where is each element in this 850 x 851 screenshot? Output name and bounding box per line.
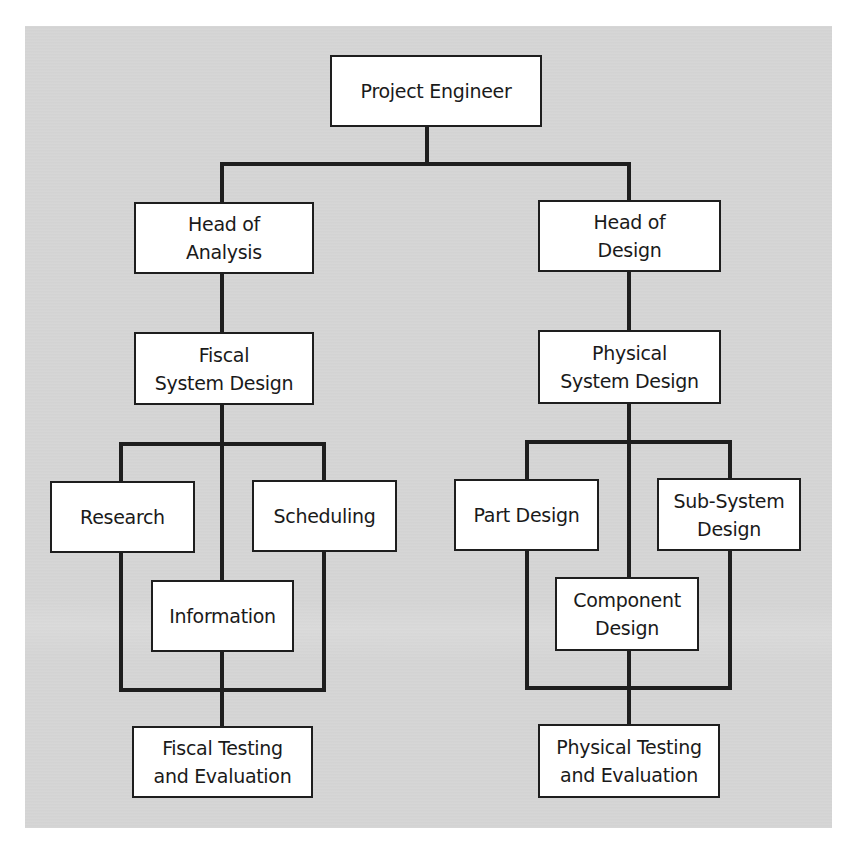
node-fiscal-system-design: Fiscal System Design xyxy=(134,332,314,405)
node-head-of-analysis: Head of Analysis xyxy=(134,202,314,274)
node-information: Information xyxy=(151,580,294,652)
node-research: Research xyxy=(50,481,195,553)
node-part-design: Part Design xyxy=(454,479,599,551)
node-component-design: Component Design xyxy=(555,577,699,651)
node-sub-system-design: Sub-System Design xyxy=(657,478,801,551)
node-physical-testing-evaluation: Physical Testing and Evaluation xyxy=(538,724,720,798)
node-head-of-design: Head of Design xyxy=(538,200,721,272)
node-scheduling: Scheduling xyxy=(252,480,397,552)
connector-lines xyxy=(0,0,850,851)
node-physical-system-design: Physical System Design xyxy=(538,330,721,404)
node-fiscal-testing-evaluation: Fiscal Testing and Evaluation xyxy=(132,726,313,798)
node-project-engineer: Project Engineer xyxy=(330,55,542,127)
